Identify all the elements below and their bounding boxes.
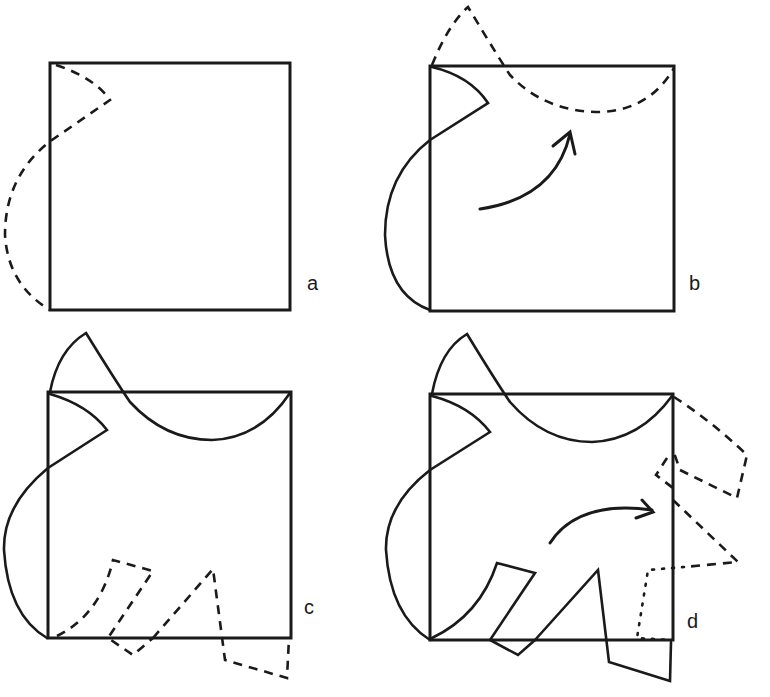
panel-d-right-dashed-notch xyxy=(656,458,673,488)
panel-c: c xyxy=(4,333,314,678)
panel-a-square xyxy=(50,63,290,310)
panel-b-label: b xyxy=(689,272,700,294)
panel-a-label: a xyxy=(307,272,319,294)
panel-d-dotted-corner xyxy=(637,567,684,640)
panel-d-label: d xyxy=(687,610,698,632)
panel-c-bottom-dashed-spike xyxy=(153,569,289,678)
panel-d-top-curve xyxy=(432,334,672,442)
panel-b-top-dashed-curve xyxy=(432,7,674,112)
panel-b-left-curve xyxy=(385,67,488,310)
panel-d-right-dashed-bar xyxy=(673,397,747,498)
panel-a-dashed-cut xyxy=(5,65,110,310)
panel-d-right-dashed-spike xyxy=(673,500,738,567)
tessellation-diagram: a b c d xyxy=(0,0,770,697)
panel-d-bottom-spike xyxy=(535,570,671,681)
panel-d: d xyxy=(386,334,747,681)
panel-b: b xyxy=(385,7,700,311)
panel-c-bottom-dashed-bar xyxy=(57,560,153,655)
panel-b-rotation-arrow xyxy=(480,134,570,209)
panel-c-label: c xyxy=(304,596,314,618)
panel-d-rotation-arrow xyxy=(550,508,652,543)
panel-a: a xyxy=(5,63,319,310)
panel-c-top-curve xyxy=(50,333,290,440)
panel-c-left-curve xyxy=(4,394,107,638)
